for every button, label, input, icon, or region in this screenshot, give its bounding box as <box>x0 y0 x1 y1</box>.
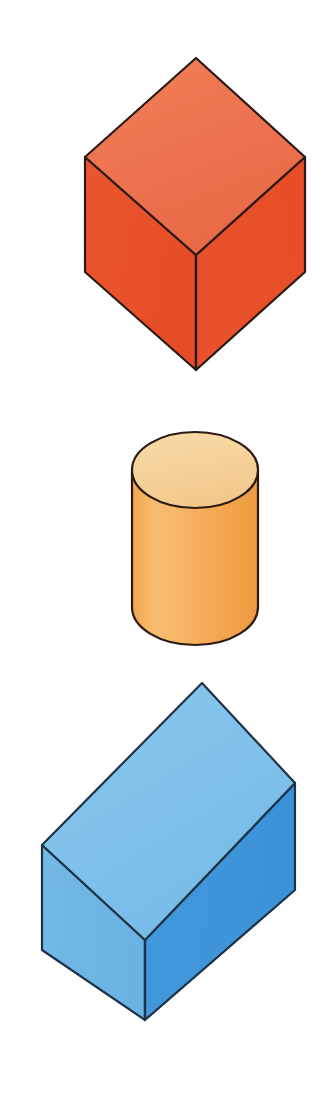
orange-cube <box>85 58 305 370</box>
cylinder-top-face <box>132 432 258 508</box>
illustration-canvas <box>0 0 332 1093</box>
solids-diagram <box>0 0 332 1093</box>
orange-cylinder <box>132 432 258 645</box>
blue-rectangular-prism <box>42 683 295 1020</box>
